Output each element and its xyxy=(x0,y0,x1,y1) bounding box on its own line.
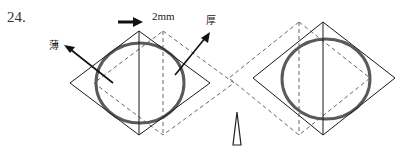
left-solid-diamond xyxy=(70,31,210,135)
right-panel xyxy=(229,22,395,135)
thin-arrow-icon xyxy=(64,45,113,83)
thin-label: 薄 xyxy=(49,39,59,51)
thick-arrow-icon xyxy=(175,32,210,75)
diagram-figure: 24. 2mm 薄 厚 xyxy=(0,0,405,152)
shift-amount-label: 2mm xyxy=(152,10,175,22)
left-panel: 薄 厚 xyxy=(49,15,234,135)
right-circle xyxy=(282,39,370,119)
thick-label: 厚 xyxy=(206,15,216,26)
left-dashed-diamond xyxy=(94,31,234,135)
left-circle xyxy=(96,43,184,123)
question-number: 24. xyxy=(7,9,26,25)
shift-arrow-icon xyxy=(118,17,143,27)
wedge-icon xyxy=(233,112,241,145)
